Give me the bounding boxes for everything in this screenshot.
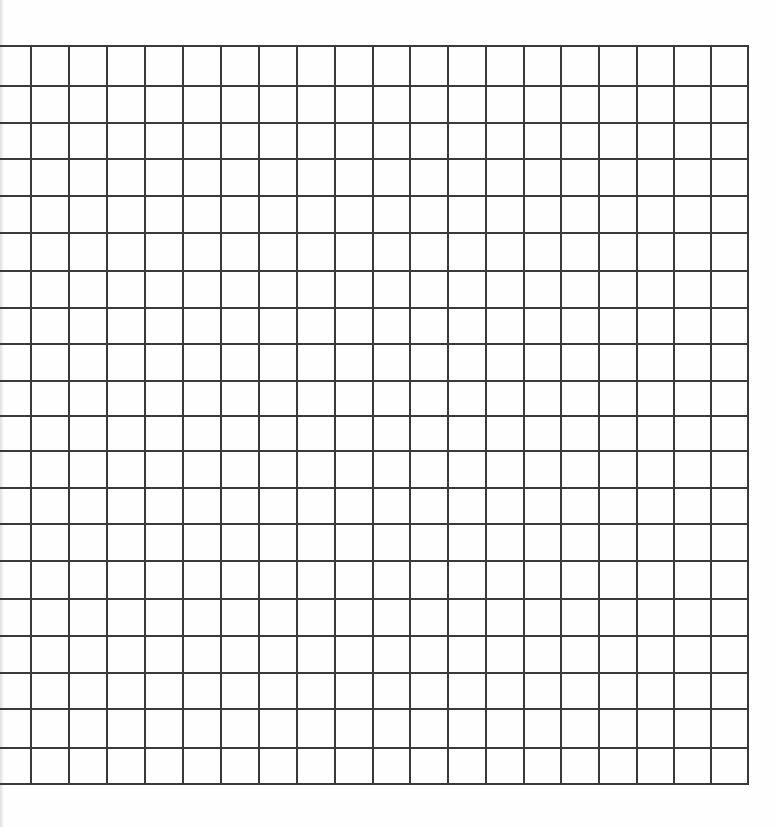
grid-column-line-19 [747,45,749,785]
grid-column-line-1 [68,45,70,785]
grid-column-line-16 [636,45,638,785]
grid-column-line-7 [296,45,298,785]
page-canvas [0,0,777,827]
grid-column-line-15 [598,45,600,785]
grid-column-line-10 [409,45,411,785]
grid-column-line-11 [447,45,449,785]
grid-column-line-3 [144,45,146,785]
grid-column-line-18 [710,45,712,785]
grid-column-line-6 [258,45,260,785]
grid-column-line-9 [372,45,374,785]
grid-column-line-13 [523,45,525,785]
grid-column-line-5 [220,45,222,785]
grid-column-line-2 [106,45,108,785]
grid-column-line-17 [673,45,675,785]
grid-column-line-0 [30,45,32,785]
grid-container [0,45,749,785]
grid-column-line-12 [485,45,487,785]
grid-column-line-4 [182,45,184,785]
grid-column-line-8 [334,45,336,785]
grid-column-line-14 [560,45,562,785]
